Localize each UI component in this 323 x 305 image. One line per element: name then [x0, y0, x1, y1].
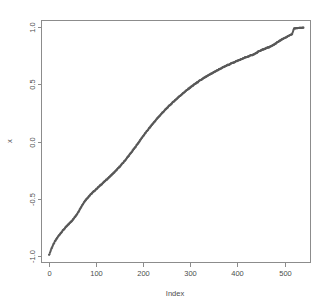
x-tick-label: 500 [279, 269, 292, 278]
y-axis-title: x [5, 139, 14, 143]
x-tick-label: 100 [90, 269, 103, 278]
y-tick-label: 0.0 [28, 137, 37, 147]
x-tick-label: 0 [47, 269, 51, 278]
y-tick-label: -1.0 [28, 250, 37, 263]
x-axis-title: Index [166, 289, 185, 298]
y-tick-label: 1.0 [28, 22, 37, 32]
x-tick-label: 300 [184, 269, 197, 278]
y-tick-label: -0.5 [28, 193, 37, 206]
data-point [302, 27, 304, 29]
plot-background [0, 0, 323, 305]
y-tick-label: 0.5 [28, 79, 37, 89]
scatter-plot: 0100200300400500 -1.0-0.50.00.51.0 Index… [0, 0, 323, 305]
x-tick-label: 200 [137, 269, 150, 278]
x-tick-label: 400 [231, 269, 244, 278]
plot-container: 0100200300400500 -1.0-0.50.00.51.0 Index… [0, 0, 323, 305]
